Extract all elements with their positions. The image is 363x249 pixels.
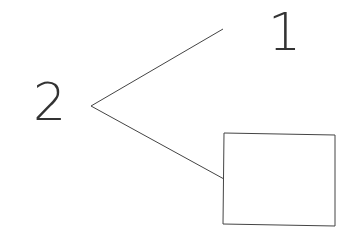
label-1: 1	[268, 6, 301, 58]
connector-to-box	[91, 106, 224, 179]
diagram-canvas: 1 2	[0, 0, 363, 249]
label-2: 2	[33, 76, 66, 128]
connector-to-1	[91, 29, 223, 106]
empty-box	[223, 133, 335, 226]
